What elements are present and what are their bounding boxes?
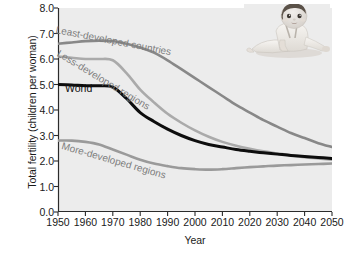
baby-photo	[244, 4, 330, 60]
